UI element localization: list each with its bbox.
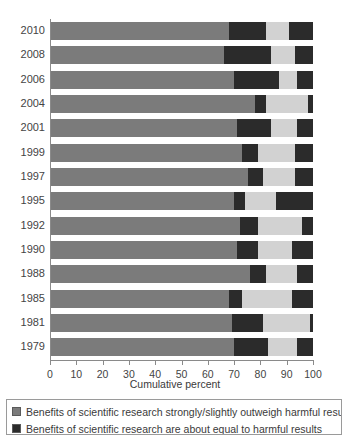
- y-axis-tick-label: 2001: [21, 118, 45, 137]
- bar-segment: [234, 192, 244, 210]
- bar-segment: [51, 144, 242, 162]
- bar-segment: [51, 217, 240, 235]
- bar-segment: [229, 290, 242, 308]
- y-axis-tick-label: 2006: [21, 70, 45, 89]
- y-axis-tick-label: 1985: [21, 289, 45, 308]
- bar-segment: [224, 46, 271, 64]
- bar-segment: [51, 46, 224, 64]
- x-axis-tick: [103, 360, 104, 365]
- stacked-bar: [51, 144, 313, 162]
- stacked-bar: [51, 119, 313, 137]
- bar-segment: [302, 217, 312, 235]
- y-axis-tick-label: 1979: [21, 337, 45, 356]
- bar-segment: [276, 192, 313, 210]
- bar-segment: [51, 314, 232, 332]
- bar-segment: [240, 217, 258, 235]
- bar-segment: [245, 192, 276, 210]
- stacked-bar: [51, 217, 313, 235]
- bar-segment: [234, 71, 279, 89]
- x-axis-tick: [234, 360, 235, 365]
- bar-segment: [234, 338, 268, 356]
- x-axis-tick: [260, 360, 261, 365]
- stacked-bar: [51, 241, 313, 259]
- y-axis-tick-label: 1995: [21, 191, 45, 210]
- bar-segment: [51, 168, 248, 186]
- stacked-bar: [51, 338, 313, 356]
- bar-segment: [295, 168, 313, 186]
- bar-segment: [255, 95, 265, 113]
- bar-segment: [51, 192, 234, 210]
- bar-segment: [51, 241, 237, 259]
- bar-row: 1992: [51, 214, 313, 238]
- x-axis-tick: [50, 360, 51, 365]
- bar-segment: [229, 22, 266, 40]
- bar-segment: [242, 144, 258, 162]
- bar-segment: [51, 71, 234, 89]
- bar-segment: [297, 119, 313, 137]
- bar-row: 1999: [51, 141, 313, 165]
- bar-row: 2001: [51, 116, 313, 140]
- bar-segment: [292, 241, 313, 259]
- bar-segment: [232, 314, 263, 332]
- bar-segment: [292, 290, 313, 308]
- stacked-bar: [51, 71, 313, 89]
- bar-segment: [297, 71, 313, 89]
- bar-segment: [279, 71, 297, 89]
- bar-row: 2010: [51, 19, 313, 43]
- stacked-bar: [51, 168, 313, 186]
- stacked-bar: [51, 46, 313, 64]
- bar-segment: [263, 168, 294, 186]
- x-axis-tick: [129, 360, 130, 365]
- stacked-bar: [51, 95, 313, 113]
- stacked-bar: [51, 314, 313, 332]
- y-axis-tick-label: 1992: [21, 216, 45, 235]
- bar-row: 1981: [51, 311, 313, 335]
- y-axis-tick-label: 2008: [21, 45, 45, 64]
- legend-label: Benefits of scientific research are abou…: [26, 423, 322, 435]
- bar-segment: [250, 265, 266, 283]
- legend-item: Benefits of scientific research are abou…: [12, 421, 337, 435]
- bar-row: 1988: [51, 262, 313, 286]
- bar-segment: [295, 46, 313, 64]
- x-axis-tick: [182, 360, 183, 365]
- bar-segment: [51, 265, 250, 283]
- bar-segment: [237, 119, 271, 137]
- bar-segment: [51, 290, 229, 308]
- bar-segment: [258, 241, 292, 259]
- bar-segment: [308, 95, 313, 113]
- bar-row: 2008: [51, 43, 313, 67]
- bar-row: 1995: [51, 189, 313, 213]
- stacked-bar: [51, 192, 313, 210]
- bar-segment: [297, 338, 313, 356]
- bar-row: 1990: [51, 238, 313, 262]
- bar-segment: [266, 22, 290, 40]
- plot-area: 2010200820062004200119991997199519921990…: [50, 19, 313, 360]
- x-axis-tick: [313, 360, 314, 365]
- bar-row: 1985: [51, 287, 313, 311]
- bar-segment: [242, 290, 292, 308]
- bar-segment: [266, 95, 308, 113]
- bar-row: 1979: [51, 335, 313, 359]
- stacked-bar-chart: 2010200820062004200119991997199519921990…: [0, 0, 350, 437]
- x-axis: 0102030405060708090100: [50, 360, 313, 361]
- bar-segment: [271, 46, 295, 64]
- bar-segment: [248, 168, 264, 186]
- bar-segment: [297, 265, 313, 283]
- bar-segment: [271, 119, 297, 137]
- legend-swatch-icon: [12, 407, 21, 416]
- bar-segment: [258, 217, 303, 235]
- bar-segment: [51, 338, 234, 356]
- bar-segment: [268, 338, 297, 356]
- bar-row: 2006: [51, 68, 313, 92]
- legend-item: Benefits of scientific research strongly…: [12, 404, 337, 419]
- bar-segment: [51, 95, 255, 113]
- y-axis-tick-label: 2004: [21, 94, 45, 113]
- stacked-bar: [51, 265, 313, 283]
- y-axis-tick-label: 1997: [21, 167, 45, 186]
- bar-segment: [51, 119, 237, 137]
- chart-legend: Benefits of scientific research strongly…: [6, 399, 342, 435]
- bar-segment: [266, 265, 297, 283]
- stacked-bar: [51, 22, 313, 40]
- x-axis-tick: [76, 360, 77, 365]
- bar-segment: [51, 22, 229, 40]
